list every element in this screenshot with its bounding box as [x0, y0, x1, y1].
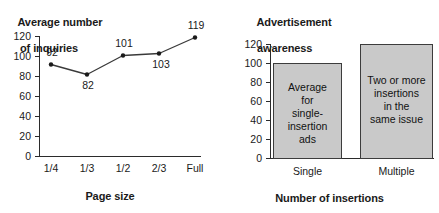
bar-ytick-label-60: 60 — [250, 95, 262, 107]
line-xtick-label-2: 1/3 — [80, 162, 95, 174]
data-point-label-3: 101 — [115, 37, 133, 49]
data-point-label-5: 119 — [188, 19, 205, 31]
bar-y-ticks: 0 20 40 60 80 100 120 — [244, 38, 270, 164]
bar-single-label-line2: for — [301, 94, 314, 106]
bar-multiple-label-line1: Two or more — [367, 74, 426, 86]
bar-multiple-label-line2: insertions — [374, 87, 419, 99]
data-point-4[interactable] — [157, 51, 161, 55]
data-point-3[interactable] — [121, 53, 125, 57]
line-chart-panel: Average number of inquiries 0 20 40 60 8… — [0, 0, 220, 213]
line-ytick-label-40: 40 — [19, 110, 31, 122]
line-ytick-label-120: 120 — [13, 30, 31, 42]
data-point-label-4: 103 — [152, 58, 170, 70]
line-chart-plot: 0 20 40 60 80 100 120 92 82 101 103 119 … — [0, 0, 220, 213]
line-xtick-label-5: Full — [187, 162, 204, 174]
line-y-ticks: 0 20 40 60 80 100 120 — [13, 30, 39, 162]
data-point-label-2: 82 — [82, 79, 94, 91]
bar-single-label-line1: Average — [288, 81, 327, 93]
line-ytick-label-20: 20 — [19, 130, 31, 142]
bar-ytick-label-0: 0 — [256, 152, 262, 164]
bar-single-label-line3: single- — [292, 107, 323, 119]
bar-ytick-label-40: 40 — [250, 114, 262, 126]
bar-chart-plot: 0 20 40 60 80 100 120 Average for single… — [220, 0, 439, 213]
line-xtick-label-1: 1/4 — [44, 162, 59, 174]
line-xtick-label-4: 2/3 — [152, 162, 167, 174]
bar-chart-panel: Advertisement awareness 0 20 40 60 80 10… — [220, 0, 439, 213]
line-x-ticks: 1/4 1/3 1/2 2/3 Full — [44, 162, 204, 174]
bar-xtick-label-single: Single — [293, 165, 322, 177]
bar-multiple-label-line3: in the — [384, 100, 410, 112]
bar-ytick-label-100: 100 — [244, 57, 262, 69]
line-x-axis-caption: Page size — [0, 190, 220, 202]
data-point-5[interactable] — [193, 35, 197, 39]
bar-x-axis-caption: Number of insertions — [220, 192, 439, 204]
bar-x-ticks: Single Multiple — [293, 165, 415, 177]
bar-single-label-line5: ads — [299, 133, 316, 145]
bar-xtick-label-multiple: Multiple — [378, 165, 414, 177]
data-point-label-1: 92 — [46, 46, 58, 58]
bar-single-label-line4: insertion — [288, 120, 328, 132]
data-point-2[interactable] — [85, 72, 89, 76]
bar-ytick-label-80: 80 — [250, 76, 262, 88]
bar-ytick-label-120: 120 — [244, 38, 262, 50]
line-ytick-label-0: 0 — [25, 150, 31, 162]
line-xtick-label-3: 1/2 — [116, 162, 131, 174]
line-ytick-label-100: 100 — [13, 50, 31, 62]
line-ytick-label-80: 80 — [19, 70, 31, 82]
bar-ytick-label-20: 20 — [250, 133, 262, 145]
data-point-1[interactable] — [49, 62, 53, 66]
bar-multiple-label-line4: same issue — [370, 113, 423, 125]
line-ytick-label-60: 60 — [19, 90, 31, 102]
